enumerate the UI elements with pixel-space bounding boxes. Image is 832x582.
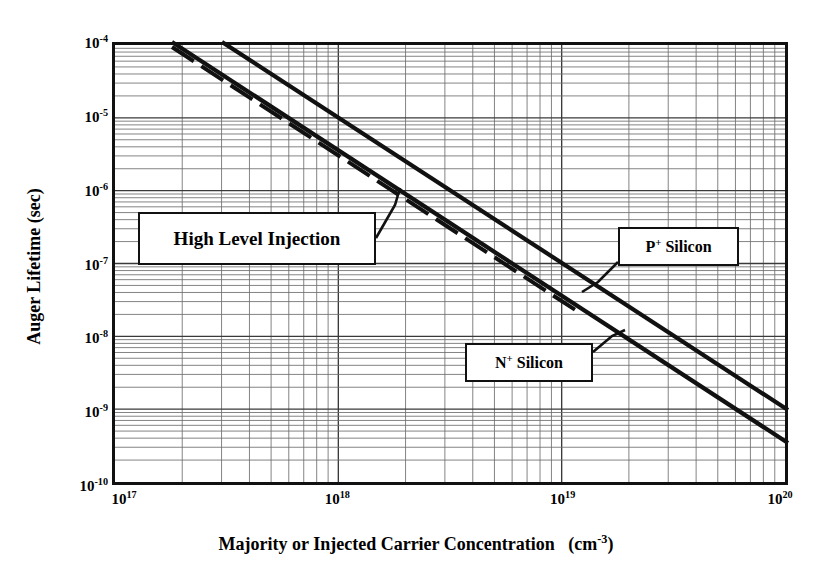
y-tick-1e-8: 10-8 — [85, 329, 109, 346]
callout-p-plus-silicon-label: P+ Silicon — [645, 236, 711, 256]
y-tick-1e-4: 10-4 — [85, 34, 109, 51]
x-tick-1e18: 1018 — [325, 490, 350, 507]
callout-n-plus-silicon-label: N+ Silicon — [495, 352, 563, 372]
auger-lifetime-chart: Auger Lifetime (sec) 10-4 10-5 10-6 10-7… — [0, 0, 832, 582]
callout-high-level-injection: High Level Injection — [138, 212, 376, 265]
y-tick-1e-9: 10-9 — [85, 403, 109, 420]
x-tick-1e17: 1017 — [111, 490, 136, 507]
x-tick-1e20: 1020 — [767, 490, 792, 507]
x-tick-1e19: 1019 — [550, 490, 575, 507]
callout-high-level-injection-label: High Level Injection — [174, 228, 341, 250]
y-tick-1e-6: 10-6 — [85, 181, 109, 198]
callout-n-plus-silicon: N+ Silicon — [465, 343, 593, 382]
x-axis-title: Majority or Injected Carrier Concentrati… — [0, 532, 832, 555]
y-tick-1e-7: 10-7 — [85, 255, 109, 272]
callout-p-plus-silicon: P+ Silicon — [618, 227, 739, 266]
y-tick-1e-5: 10-5 — [85, 107, 109, 124]
y-axis-tick-labels: 10-4 10-5 10-6 10-7 10-8 10-9 10-10 — [22, 0, 108, 582]
y-tick-1e-10: 10-10 — [79, 477, 108, 494]
